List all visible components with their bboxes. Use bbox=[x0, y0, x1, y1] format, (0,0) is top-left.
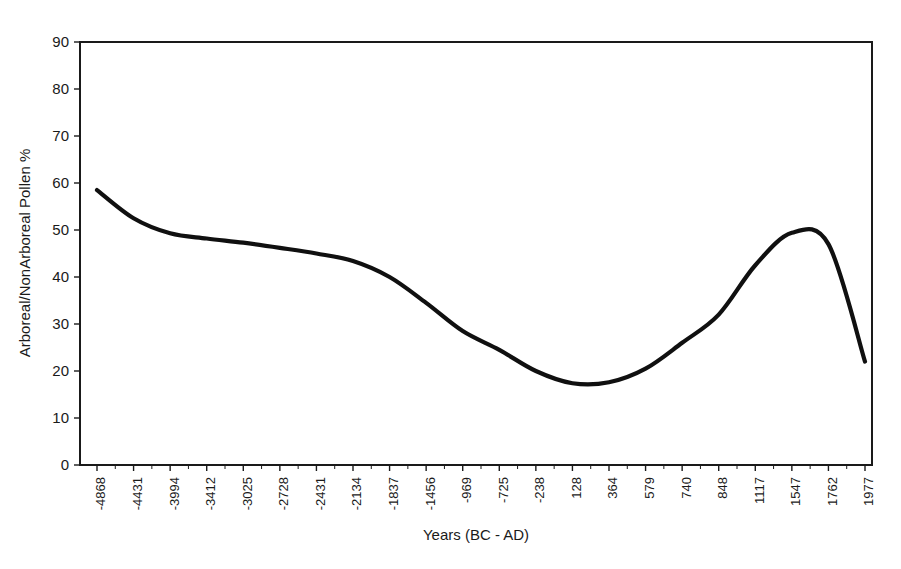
x-axis-tick-label: 740 bbox=[679, 477, 694, 499]
x-axis-title: Years (BC - AD) bbox=[423, 526, 529, 543]
x-axis-tick-label: 364 bbox=[605, 477, 620, 499]
x-axis-tick-label: -4868 bbox=[93, 477, 108, 510]
x-axis-tick-label: -2134 bbox=[349, 477, 364, 510]
y-axis-tick-label: 30 bbox=[52, 315, 69, 332]
series-layer bbox=[97, 190, 865, 384]
y-axis-tick-label: 70 bbox=[52, 127, 69, 144]
x-axis-tick-label: -969 bbox=[459, 477, 474, 503]
x-axis-tick-label: -3994 bbox=[167, 477, 182, 510]
x-axis-tick-label: 848 bbox=[715, 477, 730, 499]
x-axis-tick-label: -1837 bbox=[386, 477, 401, 510]
y-axis-tick-label: 0 bbox=[61, 456, 69, 473]
x-axis-tick-label: 579 bbox=[642, 477, 657, 499]
y-axis-tick-label: 10 bbox=[52, 409, 69, 426]
pollen-chart: 0102030405060708090 -4868-4431-3994-3412… bbox=[0, 0, 901, 569]
x-axis-tick-label: 1547 bbox=[788, 477, 803, 506]
y-axis-title: Arboreal/NonArboreal Pollen % bbox=[16, 149, 33, 357]
x-axis-tick-label: 1977 bbox=[861, 477, 876, 506]
x-axis-tick-label: -238 bbox=[532, 477, 547, 503]
y-axis-tick-label: 40 bbox=[52, 268, 69, 285]
y-axis-tick-label: 20 bbox=[52, 362, 69, 379]
x-axis-tick-label: -1456 bbox=[423, 477, 438, 510]
x-axis-tick-label: -725 bbox=[496, 477, 511, 503]
y-axis-tick-label: 60 bbox=[52, 174, 69, 191]
x-axis-tick-label: 1117 bbox=[752, 477, 767, 504]
y-axis: 0102030405060708090 bbox=[52, 33, 80, 473]
x-axis-tick-label: -3412 bbox=[203, 477, 218, 510]
y-axis-tick-label: 50 bbox=[52, 221, 69, 238]
x-axis-tick-label: 128 bbox=[569, 477, 584, 499]
series-line bbox=[97, 190, 865, 384]
y-axis-tick-label: 90 bbox=[52, 33, 69, 50]
x-axis-tick-label: -4431 bbox=[130, 477, 145, 510]
x-axis-tick-label: -3025 bbox=[240, 477, 255, 510]
x-axis-tick-label: 1762 bbox=[825, 477, 840, 506]
y-axis-tick-label: 80 bbox=[52, 80, 69, 97]
x-axis: -4868-4431-3994-3412-3025-2728-2431-2134… bbox=[93, 465, 876, 510]
chart-canvas: 0102030405060708090 -4868-4431-3994-3412… bbox=[0, 0, 901, 569]
x-axis-tick-label: -2431 bbox=[313, 477, 328, 510]
x-axis-tick-label: -2728 bbox=[276, 477, 291, 510]
plot-frame bbox=[80, 42, 872, 465]
